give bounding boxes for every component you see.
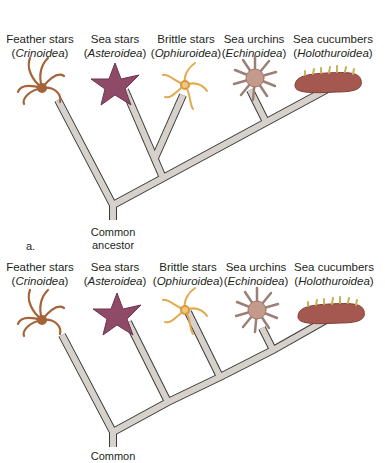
sea-cucumber-icon <box>298 297 364 324</box>
cladogram-panel-a: Feather stars (Crinoidea) Sea stars (Ast… <box>0 0 385 250</box>
sea-cucumber-icon <box>295 66 361 93</box>
feather-star-icon <box>18 290 64 336</box>
sea-urchin-icon <box>236 288 278 332</box>
branch-lines <box>58 85 335 220</box>
feather-star-icon <box>18 58 64 104</box>
branch-lines <box>62 312 335 447</box>
brittle-star-icon <box>163 63 207 109</box>
common-ancestor-label-b: Common <box>91 450 136 463</box>
cladogram-panel-b: Feather stars (Crinoidea) Sea stars (Ast… <box>0 250 385 463</box>
common-ancestor-label-a: Common ancestor <box>91 226 136 252</box>
cladogram-tree-a <box>0 0 385 250</box>
cladogram-tree-b <box>0 250 385 463</box>
brittle-star-icon <box>163 288 207 334</box>
